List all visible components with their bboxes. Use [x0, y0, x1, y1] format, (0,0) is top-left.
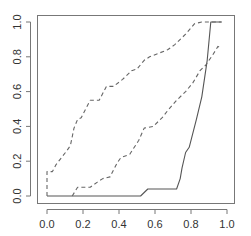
- chart-canvas: 0.00.20.40.60.81.0 0.00.20.40.60.81.0: [0, 0, 251, 236]
- y-tick-label: 1.0: [11, 14, 23, 29]
- plot-frame: [38, 16, 235, 204]
- y-tick-label: 0.6: [11, 84, 23, 99]
- x-tick-label: 0.2: [75, 218, 90, 230]
- x-tick-label: 0.6: [147, 218, 162, 230]
- y-axis: 0.00.20.40.60.81.0: [11, 14, 31, 203]
- y-tick-label: 0.4: [11, 119, 23, 134]
- x-tick-label: 0.0: [39, 218, 54, 230]
- x-axis: 0.00.20.40.60.81.0: [39, 210, 234, 231]
- y-tick-label: 0.0: [11, 188, 23, 203]
- x-tick-label: 0.4: [111, 218, 126, 230]
- y-tick-label: 0.8: [11, 49, 23, 64]
- series-layer: [47, 22, 222, 196]
- series-estimate-line: [47, 22, 222, 196]
- x-tick-label: 1.0: [219, 218, 234, 230]
- y-tick-label: 0.2: [11, 154, 23, 169]
- x-tick-label: 0.8: [183, 218, 198, 230]
- series-upper-bound-line: [47, 22, 222, 196]
- series-lower-bound-line: [72, 46, 221, 196]
